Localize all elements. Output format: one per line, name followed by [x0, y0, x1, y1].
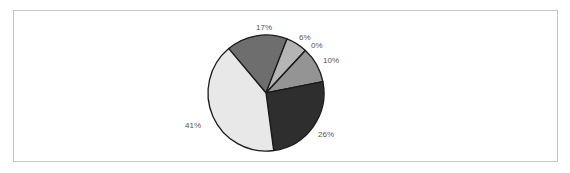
pie-chart: 17% 6% 0% 10% 26% 41%: [0, 0, 570, 173]
pie-slice-26: [266, 82, 324, 151]
slice-label-10: 10%: [323, 56, 339, 65]
slice-label-0: 0%: [311, 41, 323, 50]
slice-label-41: 41%: [185, 121, 201, 130]
slice-label-6: 6%: [299, 33, 311, 42]
slice-label-26: 26%: [318, 130, 334, 139]
pie-slices: [208, 35, 324, 151]
slice-label-17: 17%: [256, 23, 272, 32]
